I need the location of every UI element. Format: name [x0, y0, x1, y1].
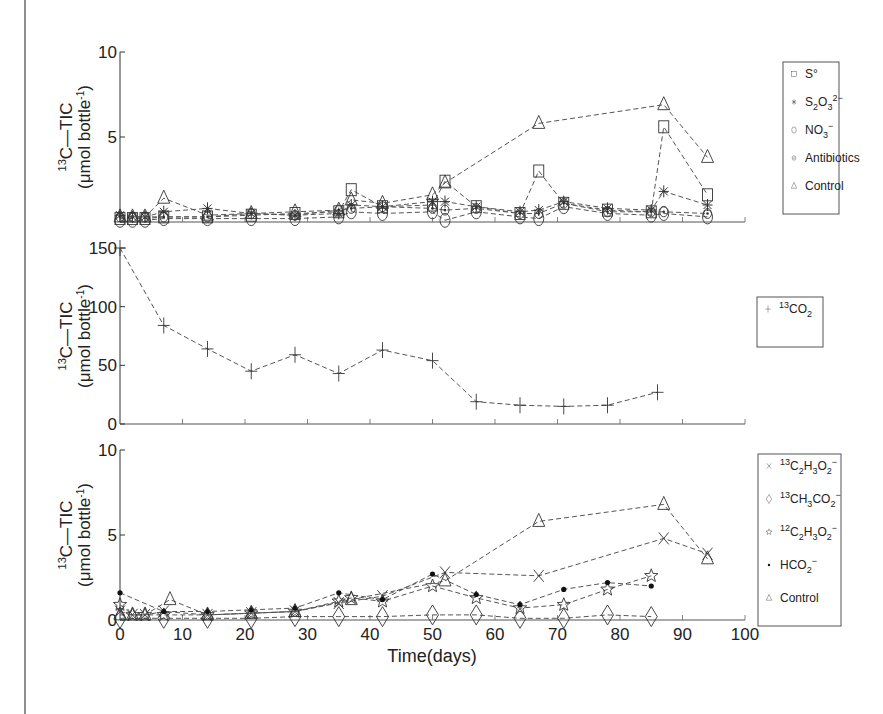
data-point: [702, 149, 714, 162]
x-tick-label: 60: [486, 625, 505, 644]
x-tick-label: 100: [731, 625, 759, 644]
data-point: [117, 590, 122, 595]
data-point: [474, 592, 479, 597]
y-axis-label-line2: (μmol bottle-1): [75, 483, 94, 587]
y-axis-label-line2: (μmol bottle-1): [75, 284, 94, 388]
y-tick-label: 5: [108, 128, 117, 147]
legend: S°S2O32−NO3−AntibioticsControl: [783, 62, 860, 214]
y-axis-label-line2: (μmol bottle-1): [75, 85, 94, 189]
data-point: [202, 341, 214, 357]
y-axis-label: 13C—TIC(μmol bottle-1): [56, 85, 94, 189]
data-point: [158, 190, 170, 203]
x-tick-label: 80: [611, 625, 630, 644]
series-line: [120, 127, 708, 219]
y-tick-label: 0: [108, 415, 117, 434]
legend-label: Antibiotics: [805, 151, 860, 165]
series-13ch3co2-: [114, 605, 657, 628]
series-13c2h3o2-: [115, 532, 713, 621]
data-point: [659, 185, 669, 197]
data-point: [652, 384, 664, 400]
x-tick-label: 90: [673, 625, 692, 644]
y-tick-label: 10: [98, 43, 117, 62]
data-point: [377, 342, 389, 358]
data-point: [659, 121, 669, 133]
legend-marker: [792, 99, 797, 104]
data-point: [514, 397, 526, 413]
y-tick-label: 50: [98, 356, 117, 375]
x-axis-label: Time(days): [387, 646, 476, 666]
data-point: [203, 202, 213, 214]
figure: 51013C—TIC(μmol bottle-1)S°S2O32−NO3−Ant…: [0, 0, 883, 714]
y-axis-label-line1: 13C—TIC: [56, 501, 76, 570]
x-tick-label: 30: [298, 625, 317, 644]
data-point: [161, 609, 166, 614]
data-point: [158, 317, 170, 333]
series-line: [120, 191, 708, 217]
panel-top: 51013C—TIC(μmol bottle-1)S°S2O32−NO3−Ant…: [56, 43, 860, 227]
series-line: [120, 248, 658, 406]
data-point: [470, 394, 482, 410]
data-point: [605, 580, 610, 585]
y-tick-label: 150: [89, 239, 117, 258]
data-point: [333, 366, 345, 382]
legend-label: Control: [805, 179, 844, 193]
series-s-: [115, 121, 713, 225]
series-line: [120, 504, 708, 615]
x-tick-label: 10: [173, 625, 192, 644]
series-control: [114, 496, 714, 620]
data-point: [430, 572, 435, 577]
y-axis-label: 13C—TIC(μmol bottle-1): [56, 284, 94, 388]
data-point: [426, 579, 439, 592]
y-axis-label-line1: 13C—TIC: [56, 302, 76, 371]
data-point: [602, 397, 614, 413]
data-point: [336, 590, 341, 595]
data-point: [658, 97, 670, 110]
data-point: [561, 587, 566, 592]
data-point: [645, 569, 658, 582]
data-point: [649, 583, 654, 588]
data-point: [658, 496, 670, 509]
y-axis-label-line1: 13C—TIC: [56, 103, 76, 172]
data-point: [440, 196, 450, 208]
data-point: [703, 199, 713, 211]
data-point: [245, 363, 257, 379]
series-line: [120, 538, 708, 615]
data-point: [289, 347, 301, 363]
data-point: [427, 353, 439, 369]
data-point: [332, 594, 345, 607]
data-point: [517, 602, 522, 607]
legend: 13CO2: [757, 297, 823, 347]
data-point: [534, 570, 544, 582]
panel-bottom: 05100102030405060708090100Time(days)13C—…: [56, 441, 841, 666]
x-tick-label: 50: [423, 625, 442, 644]
data-point: [534, 165, 544, 177]
data-point: [558, 398, 570, 414]
data-point: [380, 597, 385, 602]
legend-label: Control: [780, 591, 819, 605]
x-tick-label: 40: [361, 625, 380, 644]
panel-middle: 05010015013C—TIC(μmol bottle-1)13CO2: [56, 239, 823, 434]
y-tick-label: 5: [108, 526, 117, 545]
legend: 13C2H3O2−13CH3CO2−12C2H3O2−HCO2−Control: [758, 454, 841, 626]
y-tick-label: 10: [98, 441, 117, 460]
data-point: [659, 532, 669, 544]
series-13co2: [114, 240, 664, 414]
series-line: [120, 615, 651, 618]
legend-marker: [768, 564, 770, 566]
data-point: [702, 551, 714, 564]
y-axis-label: 13C—TIC(μmol bottle-1): [56, 483, 94, 587]
series-line: [120, 105, 708, 217]
legend-label: S°: [805, 67, 818, 81]
